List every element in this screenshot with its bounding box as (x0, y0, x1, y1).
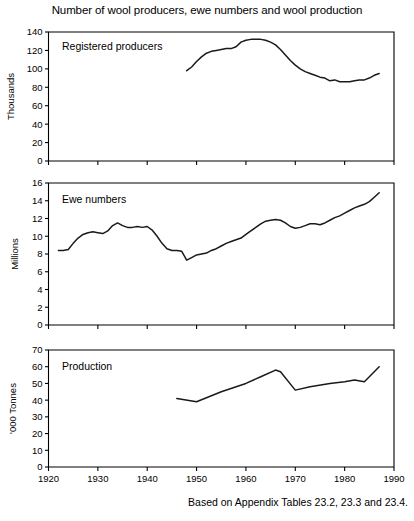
y-axis-tick-label: 8 (37, 248, 42, 259)
chart-panel-3: 0102030405060701920193019401950196019701… (7, 344, 405, 484)
y-axis-title: '000 Tonnes (7, 383, 18, 434)
y-axis-tick-label: 10 (32, 445, 43, 456)
y-axis-tick-label: 60 (32, 100, 43, 111)
y-axis-tick-label: 0 (37, 319, 42, 330)
y-axis-tick-label: 100 (27, 63, 43, 74)
y-axis-tick-label: 40 (32, 395, 43, 406)
data-series-line (177, 367, 379, 402)
y-axis-title: Thousands (5, 73, 16, 120)
y-axis-tick-label: 0 (37, 461, 42, 472)
source-footnote: Based on Appendix Tables 23.2, 23.3 and … (0, 496, 408, 508)
x-axis-tick-label: 1940 (137, 473, 158, 484)
panel-label: Ewe numbers (62, 193, 126, 205)
x-axis-tick-label: 1930 (87, 473, 108, 484)
x-axis-tick-label: 1990 (383, 473, 404, 484)
y-axis-tick-label: 120 (27, 45, 43, 56)
chart-panel-1: 020406080100120140ThousandsRegistered pr… (5, 26, 394, 166)
x-axis-tick-label: 1960 (235, 473, 256, 484)
y-axis-tick-label: 2 (37, 302, 42, 313)
x-axis-tick-label: 1920 (38, 473, 59, 484)
data-series-line (187, 39, 379, 81)
panel-label: Registered producers (62, 40, 162, 52)
y-axis-tick-label: 40 (32, 119, 43, 130)
y-axis-tick-label: 16 (32, 177, 43, 188)
x-axis-tick-label: 1980 (334, 473, 355, 484)
y-axis-tick-label: 140 (27, 26, 43, 37)
y-axis-tick-label: 20 (32, 428, 43, 439)
y-axis-tick-label: 60 (32, 361, 43, 372)
x-axis-tick-label: 1950 (186, 473, 207, 484)
y-axis-tick-label: 14 (32, 195, 43, 206)
y-axis-title: Millions (9, 238, 20, 270)
y-axis-tick-label: 10 (32, 231, 43, 242)
y-axis-tick-label: 6 (37, 266, 42, 277)
y-axis-tick-label: 4 (37, 284, 42, 295)
panel-label: Production (62, 360, 112, 372)
y-axis-tick-label: 30 (32, 411, 43, 422)
y-axis-tick-label: 0 (37, 155, 42, 166)
chart-panel-2: 0246810121416MillionsEwe numbers (9, 177, 394, 330)
y-axis-tick-label: 70 (32, 344, 43, 355)
y-axis-tick-label: 80 (32, 82, 43, 93)
multi-panel-line-chart: 020406080100120140ThousandsRegistered pr… (0, 0, 414, 521)
y-axis-tick-label: 12 (32, 213, 43, 224)
y-axis-tick-label: 50 (32, 378, 43, 389)
wool-statistics-figure: Number of wool producers, ewe numbers an… (0, 0, 414, 521)
x-axis-tick-label: 1970 (285, 473, 306, 484)
y-axis-tick-label: 20 (32, 137, 43, 148)
